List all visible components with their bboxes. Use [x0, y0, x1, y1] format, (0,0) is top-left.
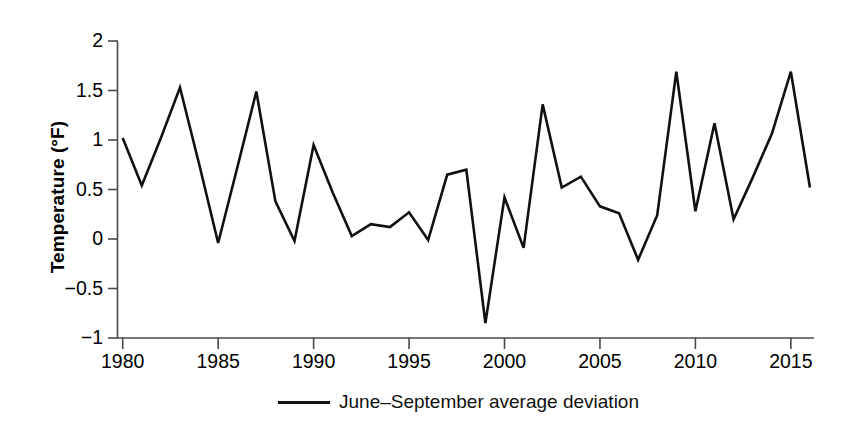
- y-axis-ticks: [108, 41, 118, 338]
- chart-legend: June–September average deviation: [278, 391, 639, 413]
- x-axis-ticks: [123, 338, 791, 349]
- legend-line-swatch: [278, 401, 330, 404]
- axis-lines: [117, 41, 814, 338]
- series-line-june-september-average-deviation: [123, 72, 810, 323]
- legend-label: June–September average deviation: [339, 391, 639, 413]
- chart-figure: Temperature (°F) −1−0.500.511.52 1980198…: [0, 0, 841, 434]
- plot-area: [0, 0, 841, 434]
